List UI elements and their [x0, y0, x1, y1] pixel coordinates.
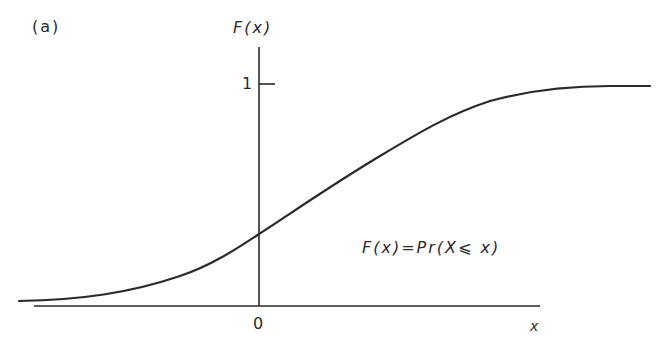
cdf-curve: [19, 86, 650, 301]
y-tick-label: 1: [242, 74, 254, 93]
cdf-figure: (a) F(x) 1 0 x F(x)=Pr(X⩽ x): [0, 0, 672, 349]
origin-label: 0: [253, 314, 265, 333]
x-axis-label: x: [530, 318, 540, 334]
cdf-plot: [0, 0, 672, 349]
panel-label: (a): [32, 17, 60, 36]
cdf-annotation: F(x)=Pr(X⩽ x): [362, 238, 500, 257]
y-axis-label: F(x): [233, 18, 272, 37]
